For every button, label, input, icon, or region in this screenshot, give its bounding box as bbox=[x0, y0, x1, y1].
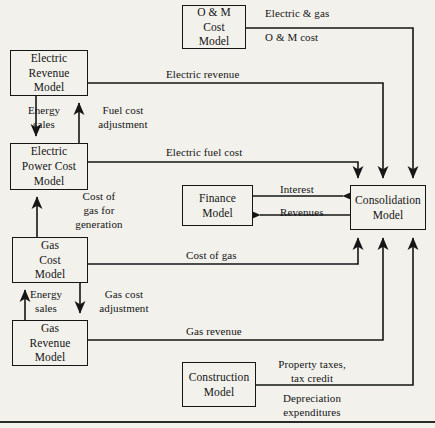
node-line: Revenue bbox=[30, 336, 71, 351]
label-cost-of-gas: Cost of gas bbox=[186, 249, 237, 263]
node-line: Finance bbox=[199, 191, 236, 206]
label-line: Fuel cost bbox=[98, 104, 147, 118]
node-line: Gas bbox=[41, 238, 59, 253]
label-line: Electric fuel cost bbox=[166, 146, 242, 160]
node-line: Consolidation bbox=[355, 193, 421, 208]
connector-om-cost-to-consolidation bbox=[246, 28, 413, 178]
node-line: Model bbox=[34, 174, 65, 189]
label-line: tax credit bbox=[278, 372, 345, 386]
label-line: sales bbox=[30, 302, 62, 316]
label-line: adjustment bbox=[99, 302, 148, 316]
node-electric-power-cost-model[interactable]: Electric Power Cost Model bbox=[10, 143, 88, 190]
node-line: Construction bbox=[189, 370, 250, 385]
flow-diagram: Electric Revenue Model Electric Power Co… bbox=[0, 0, 435, 428]
label-line: O & M cost bbox=[265, 31, 318, 45]
label-line: Gas revenue bbox=[186, 325, 242, 339]
label-line: Interest bbox=[280, 183, 314, 197]
label-depreciation-expenditures: Depreciation expenditures bbox=[283, 392, 341, 420]
label-line: Revenues bbox=[280, 206, 324, 220]
label-line: Depreciation bbox=[283, 392, 341, 406]
node-line: O & M bbox=[197, 5, 231, 20]
node-line: Model bbox=[373, 208, 404, 223]
node-consolidation-model[interactable]: Consolidation Model bbox=[350, 185, 426, 230]
node-line: Model bbox=[202, 206, 233, 221]
label-gas-cost-adjustment: Gas cost adjustment bbox=[99, 288, 148, 316]
node-line: Electric bbox=[31, 144, 68, 159]
label-electric-fuel-cost: Electric fuel cost bbox=[166, 146, 242, 160]
label-line: generation bbox=[75, 218, 122, 232]
label-property-taxes-tax-credit: Property taxes, tax credit bbox=[278, 358, 345, 386]
node-line: Power Cost bbox=[22, 159, 76, 174]
node-line: Model bbox=[199, 34, 230, 49]
label-om-cost: O & M cost bbox=[265, 31, 318, 45]
node-line: Electric bbox=[31, 51, 68, 66]
node-line: Model bbox=[35, 267, 66, 282]
label-line: Cost of bbox=[75, 190, 122, 204]
label-energy-sales-gas: Energy sales bbox=[30, 288, 62, 316]
label-line: Gas cost bbox=[99, 288, 148, 302]
node-gas-revenue-model[interactable]: Gas Revenue Model bbox=[12, 320, 88, 366]
node-line: Model bbox=[35, 350, 66, 365]
node-line: Revenue bbox=[29, 66, 70, 81]
label-fuel-cost-adjustment: Fuel cost adjustment bbox=[98, 104, 147, 132]
node-gas-cost-model[interactable]: Gas Cost Model bbox=[12, 237, 88, 283]
page-bottom-rule bbox=[0, 421, 435, 423]
label-line: Electric revenue bbox=[166, 68, 239, 82]
label-interest: Interest bbox=[280, 183, 314, 197]
label-line: adjustment bbox=[98, 118, 147, 132]
label-line: Energy bbox=[30, 288, 62, 302]
node-line: Cost bbox=[203, 20, 225, 35]
label-revenues: Revenues bbox=[280, 206, 324, 220]
label-line: Property taxes, bbox=[278, 358, 345, 372]
node-finance-model[interactable]: Finance Model bbox=[182, 185, 253, 226]
label-electric-and-gas: Electric & gas bbox=[265, 7, 329, 21]
label-electric-revenue: Electric revenue bbox=[166, 68, 239, 82]
node-line: Model bbox=[204, 385, 235, 400]
label-line: Cost of gas bbox=[186, 249, 237, 263]
label-line: expenditures bbox=[283, 406, 341, 420]
label-line: Electric & gas bbox=[265, 7, 329, 21]
label-line: sales bbox=[28, 118, 60, 132]
node-line: Cost bbox=[39, 253, 61, 268]
node-line: Gas bbox=[41, 321, 59, 336]
connector-electric-fuel-cost-to-consolidation bbox=[88, 162, 358, 178]
label-cost-of-gas-for-generation: Cost of gas for generation bbox=[75, 190, 122, 231]
node-line: Model bbox=[34, 80, 65, 95]
label-gas-revenue: Gas revenue bbox=[186, 325, 242, 339]
label-line: gas for bbox=[75, 204, 122, 218]
label-line: Energy bbox=[28, 104, 60, 118]
node-electric-revenue-model[interactable]: Electric Revenue Model bbox=[10, 50, 88, 96]
label-energy-sales-electric: Energy sales bbox=[28, 104, 60, 132]
node-om-cost-model[interactable]: O & M Cost Model bbox=[182, 5, 246, 49]
node-construction-model[interactable]: Construction Model bbox=[182, 362, 256, 407]
